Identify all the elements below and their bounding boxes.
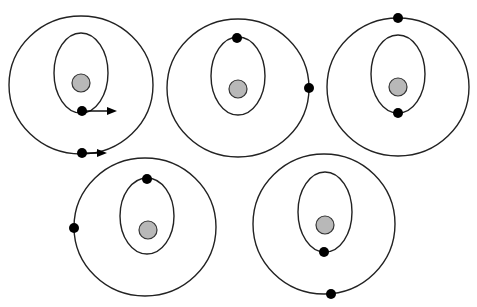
inner-orbit	[120, 178, 174, 254]
inner-orbit	[54, 33, 108, 113]
inner-orbit-body-dot	[319, 247, 329, 257]
arrow-icon	[82, 107, 117, 115]
inner-orbit-body-dot	[77, 106, 87, 116]
outer-orbit-body-dot	[69, 223, 79, 233]
outer-orbit-body-dot	[304, 83, 314, 93]
panel-5	[253, 154, 395, 299]
inner-orbit-body-dot	[142, 174, 152, 184]
inner-orbit	[211, 37, 265, 115]
inner-orbit-body-dot	[232, 33, 242, 43]
panel-3	[327, 13, 469, 156]
panel-1	[9, 16, 153, 158]
outer-orbit-body-dot	[77, 148, 87, 158]
nucleus	[229, 80, 247, 98]
panel-2	[167, 19, 314, 157]
nucleus	[389, 78, 407, 96]
outer-orbit-body-dot	[393, 13, 403, 23]
nucleus	[139, 221, 157, 239]
outer-orbit-body-dot	[326, 289, 336, 299]
nucleus	[72, 74, 90, 92]
nucleus	[316, 216, 334, 234]
orbit-diagram-figure	[0, 0, 477, 307]
inner-orbit	[371, 35, 425, 113]
panel-4	[69, 158, 216, 296]
inner-orbit	[298, 172, 352, 252]
inner-orbit-body-dot	[393, 108, 403, 118]
